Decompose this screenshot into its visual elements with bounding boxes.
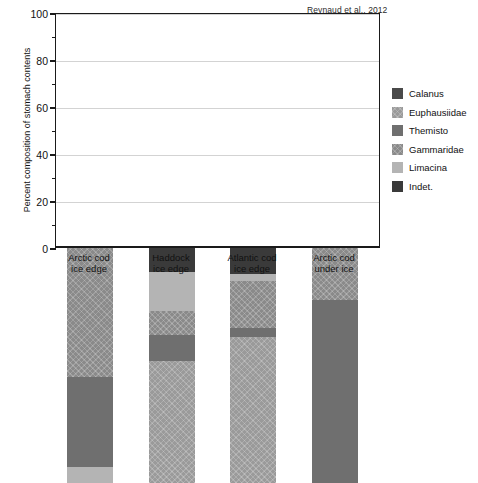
bar-segment-gammaridae	[230, 281, 276, 328]
bar-segment-limacina	[67, 467, 113, 483]
gridline	[56, 14, 379, 15]
bar-segment-themisto	[230, 328, 276, 337]
gridline	[56, 155, 379, 156]
y-axis-tick-label: 100	[30, 8, 48, 20]
bar-segment-themisto	[149, 335, 195, 361]
bar-segment-themisto	[312, 300, 358, 483]
bar-segment-limacina	[230, 274, 276, 281]
legend-label: Euphausiidae	[409, 107, 467, 118]
legend-item-limacina[interactable]: Limacina	[392, 160, 467, 175]
legend-label: Calanus	[409, 88, 444, 99]
legend-swatch-icon	[392, 88, 403, 99]
bar-segment-euphausiidae	[149, 361, 195, 483]
legend-item-themisto[interactable]: Themisto	[392, 123, 467, 138]
legend-item-indet[interactable]: Indet.	[392, 179, 467, 194]
y-axis-tick-label: 40	[36, 149, 48, 161]
y-axis-title: Percent composition of stomach contents	[22, 30, 32, 230]
legend-swatch-icon	[392, 144, 403, 155]
x-axis-category-label: Arctic codunder ice	[286, 252, 382, 274]
legend-swatch-icon	[392, 181, 403, 192]
y-axis-minor-tick	[52, 131, 56, 132]
y-axis-tick-label: 60	[36, 102, 48, 114]
legend-swatch-icon	[392, 107, 403, 118]
y-axis-tick	[50, 248, 56, 249]
y-axis-tick	[50, 13, 56, 14]
y-axis-tick	[50, 154, 56, 155]
legend-label: Themisto	[409, 125, 448, 136]
y-axis-tick	[50, 60, 56, 61]
legend-swatch-icon	[392, 162, 403, 173]
y-axis-tick-label: 20	[36, 196, 48, 208]
y-axis-minor-tick	[52, 37, 56, 38]
x-axis-line	[56, 246, 379, 248]
legend-label: Limacina	[409, 162, 447, 173]
gridline	[56, 108, 379, 109]
legend-item-gammaridae[interactable]: Gammaridae	[392, 142, 467, 157]
bar-segment-themisto	[67, 377, 113, 466]
plot-inner	[56, 14, 379, 248]
bar-segment-euphausiidae	[230, 337, 276, 483]
plot-area: 020406080100	[55, 13, 380, 248]
category-label-line: under ice	[286, 263, 382, 274]
legend-item-calanus[interactable]: Calanus	[392, 86, 467, 101]
bar-segment-limacina	[149, 272, 195, 312]
gridline	[56, 61, 379, 62]
y-axis-minor-tick	[52, 84, 56, 85]
legend-label: Indet.	[409, 181, 433, 192]
y-axis-tick-label: 80	[36, 55, 48, 67]
y-axis-minor-tick	[52, 225, 56, 226]
gridline	[56, 202, 379, 203]
chart-legend: CalanusEuphausiidaeThemistoGammaridaeLim…	[392, 86, 467, 197]
y-axis-minor-tick	[52, 178, 56, 179]
legend-item-euphausiidae[interactable]: Euphausiidae	[392, 105, 467, 120]
legend-swatch-icon	[392, 125, 403, 136]
category-label-line: Arctic cod	[286, 252, 382, 263]
bar-segment-gammaridae	[149, 311, 195, 335]
y-axis-tick	[50, 201, 56, 202]
y-axis-tick	[50, 107, 56, 108]
legend-label: Gammaridae	[409, 144, 464, 155]
